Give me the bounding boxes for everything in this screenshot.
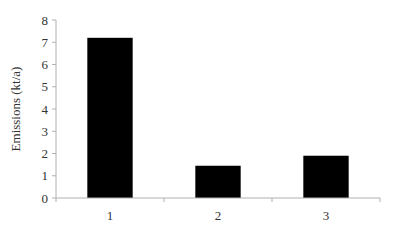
y-tick-label: 8 — [42, 13, 49, 28]
y-tick-label: 4 — [42, 102, 49, 117]
bar-chart: 012345678 123 Emissions (kt/a) — [0, 0, 402, 234]
y-tick-label: 7 — [42, 35, 49, 50]
y-axis: 012345678 — [42, 13, 57, 206]
x-tick-label: 3 — [323, 208, 330, 223]
x-axis: 123 — [56, 198, 380, 223]
x-tick-label: 2 — [215, 208, 222, 223]
bar-2 — [195, 166, 240, 198]
y-tick-label: 6 — [42, 57, 49, 72]
y-tick-label: 0 — [42, 191, 49, 206]
y-tick-label: 3 — [42, 124, 49, 139]
bar-3 — [303, 156, 348, 198]
bars — [87, 38, 348, 198]
y-tick-label: 2 — [42, 146, 49, 161]
y-tick-label: 1 — [42, 168, 49, 183]
bar-1 — [87, 38, 132, 198]
x-tick-label: 1 — [107, 208, 114, 223]
y-tick-label: 5 — [42, 79, 49, 94]
y-axis-title: Emissions (kt/a) — [8, 67, 23, 152]
